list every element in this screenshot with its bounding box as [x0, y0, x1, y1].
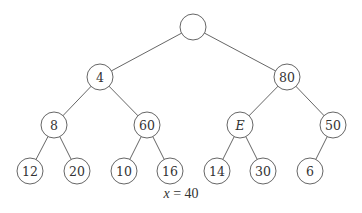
tree-node-n20: 20 — [64, 158, 90, 184]
node-label: 4 — [96, 70, 104, 85]
tree-node-n10: 10 — [111, 158, 137, 184]
node-label: 80 — [279, 70, 295, 85]
tree-edge-root-n80 — [193, 27, 287, 77]
node-label: 30 — [255, 164, 271, 179]
tree-node-n4: 4 — [87, 64, 113, 90]
tree-node-n14: 14 — [204, 158, 230, 184]
node-label: 20 — [69, 164, 85, 179]
tree-node-n16: 16 — [157, 158, 183, 184]
tree-edge-root-n4 — [100, 27, 193, 77]
tree-node-n30: 30 — [250, 158, 276, 184]
node-label: 60 — [139, 118, 155, 133]
tree-node-n12: 12 — [17, 158, 43, 184]
tree-node-n50: 50 — [320, 112, 346, 138]
tree-nodes: 480860E501220101614306 — [17, 14, 346, 184]
tree-node-n6: 6 — [297, 158, 323, 184]
node-label: 8 — [50, 118, 58, 133]
caption-operator: = — [170, 186, 185, 201]
caption: x = 40 — [0, 186, 362, 202]
tree-node-nE: E — [227, 112, 253, 138]
tree-node-root — [180, 14, 206, 40]
node-label: 14 — [209, 164, 225, 179]
node-circle — [180, 14, 206, 40]
node-label: 12 — [22, 164, 38, 179]
tree-edges — [30, 27, 333, 171]
tree-node-n60: 60 — [134, 112, 160, 138]
tree-node-n80: 80 — [274, 64, 300, 90]
node-label: 50 — [325, 118, 341, 133]
node-label: 16 — [162, 164, 178, 179]
node-label: 10 — [116, 164, 132, 179]
caption-value: 40 — [185, 186, 199, 201]
binary-tree-diagram: 480860E501220101614306 — [0, 0, 362, 213]
node-label: E — [234, 118, 244, 133]
node-label: 6 — [306, 164, 314, 179]
tree-node-n8: 8 — [41, 112, 67, 138]
